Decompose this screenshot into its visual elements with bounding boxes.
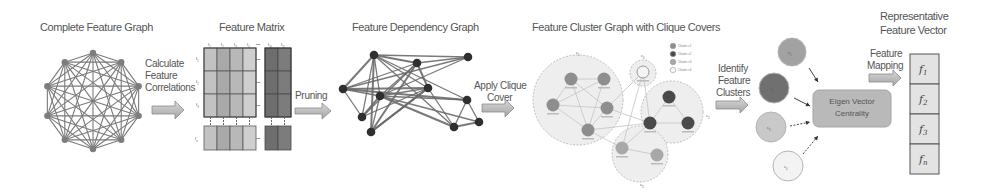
arrow-icon bbox=[152, 101, 184, 119]
eigen-centrality-label-line1: Eigen Vector bbox=[829, 97, 875, 106]
cluster-node bbox=[644, 117, 657, 130]
cluster-node bbox=[598, 73, 611, 86]
graph-edge bbox=[47, 116, 64, 140]
feature-pipeline-diagram: Complete Feature Graph Calculate Feature… bbox=[0, 0, 990, 196]
graph-edge bbox=[93, 53, 121, 62]
identify-clusters-step: Identify Feature Clusters bbox=[716, 63, 751, 113]
graph-node bbox=[62, 137, 68, 143]
pruning-step: Pruning bbox=[295, 90, 331, 119]
cluster-circle bbox=[773, 151, 803, 181]
graph-edge bbox=[47, 62, 64, 86]
feature-dependency-graph bbox=[339, 51, 484, 137]
matrix-ellipsis: ••• bbox=[256, 42, 261, 47]
feature-matrix: f1f2f3f4•••f10f11f1f2f3fn•••••••••••• bbox=[195, 42, 291, 150]
node-label-placeholder bbox=[682, 131, 694, 133]
cluster-node bbox=[651, 149, 664, 162]
graph-edge bbox=[454, 100, 467, 127]
step-label-line: Calculate bbox=[145, 58, 185, 69]
arrow-icon bbox=[716, 97, 748, 113]
graph-node bbox=[135, 83, 141, 89]
graph-node bbox=[90, 50, 96, 56]
graph-node bbox=[450, 123, 459, 132]
graph-node bbox=[62, 59, 68, 65]
matrix-cell bbox=[230, 71, 243, 94]
legend-label: Cluster c2 bbox=[678, 52, 692, 56]
cluster-circle bbox=[756, 112, 786, 142]
graph-edge bbox=[65, 53, 93, 62]
step-label-line: Pruning bbox=[295, 90, 327, 101]
representative-feature-vector: f1f2f3fn bbox=[910, 54, 939, 174]
node-label-placeholder bbox=[547, 113, 559, 115]
graph-node bbox=[339, 85, 348, 94]
step-label-line: Mapping bbox=[867, 60, 903, 71]
legend-label: Cluster c3 bbox=[678, 60, 692, 64]
calculate-correlations-step: Calculate Feature Correlations bbox=[145, 58, 196, 119]
graph-edge bbox=[65, 140, 93, 149]
cluster-node bbox=[582, 124, 595, 137]
matrix-cell bbox=[230, 126, 243, 150]
step-label-line: Feature bbox=[718, 75, 751, 86]
feature-cluster-graph: c1c2c3c4Cluster c1Cluster c2Cluster c3Cl… bbox=[533, 43, 710, 188]
matrix-cell bbox=[265, 71, 278, 94]
matrix-row-label: fn bbox=[195, 136, 198, 143]
cluster-node bbox=[547, 99, 560, 112]
legend-swatch bbox=[670, 43, 676, 49]
matrix-cell bbox=[217, 126, 230, 150]
matrix-ellipsis: ••• bbox=[256, 136, 261, 141]
graph-edge bbox=[374, 55, 380, 96]
representative-vector-title-line2: Feature Vector bbox=[880, 24, 947, 36]
matrix-cell bbox=[217, 94, 230, 117]
arrowhead-icon bbox=[806, 121, 810, 125]
step-label-line: Cover bbox=[487, 92, 513, 103]
matrix-ellipsis: ••• bbox=[256, 103, 261, 108]
matrix-cell bbox=[243, 94, 256, 117]
cluster-node bbox=[663, 91, 676, 104]
graph-node bbox=[44, 83, 50, 89]
step-label-line: Clusters bbox=[716, 87, 751, 98]
matrix-ellipsis: ••• bbox=[256, 57, 261, 62]
node-label-placeholder bbox=[644, 131, 656, 133]
matrix-cell bbox=[278, 48, 291, 71]
graph-node bbox=[44, 113, 50, 119]
graph-node bbox=[135, 113, 141, 119]
matrix-cell bbox=[217, 71, 230, 94]
cluster-circle bbox=[759, 73, 789, 103]
graph-edge bbox=[121, 116, 138, 140]
node-label-placeholder bbox=[637, 80, 649, 82]
matrix-cell bbox=[217, 48, 230, 71]
graph-edge bbox=[343, 88, 428, 89]
node-label-placeholder bbox=[651, 163, 663, 165]
step-label-line: Apply Clique bbox=[474, 80, 527, 91]
matrix-row-label: f2 bbox=[196, 79, 199, 86]
graph-node bbox=[118, 59, 124, 65]
cluster-label: c3 bbox=[640, 182, 644, 189]
legend-swatch bbox=[670, 59, 676, 65]
node-label-placeholder bbox=[565, 87, 577, 89]
cluster-node bbox=[682, 117, 695, 130]
cluster-node bbox=[637, 66, 649, 78]
matrix-cell bbox=[230, 94, 243, 117]
graph-node bbox=[370, 51, 379, 60]
cluster-node bbox=[601, 102, 614, 115]
step-label-line: Correlations bbox=[145, 82, 196, 93]
step-label-line: Feature bbox=[870, 48, 903, 59]
matrix-cell bbox=[265, 126, 278, 150]
node-label-placeholder bbox=[598, 87, 610, 89]
graph-edge bbox=[121, 62, 138, 86]
node-label-placeholder bbox=[582, 138, 594, 140]
legend-label: Cluster c4 bbox=[678, 68, 692, 72]
matrix-cell bbox=[204, 126, 217, 150]
graph-node bbox=[424, 84, 433, 93]
node-label-placeholder bbox=[663, 105, 675, 107]
graph-node bbox=[463, 96, 472, 105]
matrix-cell bbox=[204, 94, 217, 117]
matrix-cell bbox=[204, 48, 217, 71]
matrix-cell bbox=[265, 48, 278, 71]
matrix-cell bbox=[204, 71, 217, 94]
graph-edge bbox=[65, 62, 93, 149]
arrow-icon bbox=[295, 103, 331, 119]
graph-edge bbox=[343, 89, 362, 117]
graph-node bbox=[118, 137, 124, 143]
matrix-cell bbox=[243, 48, 256, 71]
clique-cover-step: Apply Clique Cover bbox=[474, 80, 527, 117]
